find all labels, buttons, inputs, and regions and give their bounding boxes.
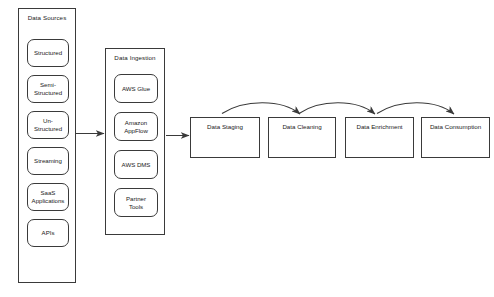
node-un-structured[interactable]: Un- Structured bbox=[27, 111, 69, 139]
node-label: Applications bbox=[32, 197, 65, 205]
node-label: Structured bbox=[34, 89, 62, 97]
connector-staging-to-cleaning bbox=[222, 103, 300, 114]
lane-title-data-sources: Data Sources bbox=[19, 14, 75, 21]
stage-label: Data Enrichment bbox=[346, 123, 413, 130]
connector-enrichment-to-consumption bbox=[377, 103, 454, 114]
stage-data-staging[interactable]: Data Staging bbox=[190, 117, 260, 158]
node-partner-tools[interactable]: Partner Tools bbox=[114, 188, 158, 217]
node-label: Semi- bbox=[40, 81, 56, 89]
node-amazon-appflow[interactable]: Amazon AppFlow bbox=[114, 112, 158, 141]
node-label: Partner bbox=[126, 195, 146, 203]
stage-data-cleaning[interactable]: Data Cleaning bbox=[268, 117, 336, 158]
stage-label: Data Cleaning bbox=[269, 123, 335, 130]
node-label: Structured bbox=[34, 49, 62, 57]
lane-data-ingestion[interactable]: Data Ingestion AWS Glue Amazon AppFlow A… bbox=[105, 48, 165, 235]
node-label: Amazon bbox=[125, 119, 147, 127]
stage-label: Data Consumption bbox=[422, 123, 489, 130]
node-label: Streaming bbox=[34, 157, 62, 165]
node-saas-applications[interactable]: SaaS Applications bbox=[27, 183, 69, 211]
connector-cleaning-to-enrichment bbox=[299, 103, 375, 114]
node-label: AppFlow bbox=[124, 127, 148, 135]
lane-data-sources[interactable]: Data Sources Structured Semi- Structured… bbox=[18, 8, 76, 283]
node-aws-dms[interactable]: AWS DMS bbox=[114, 150, 158, 179]
node-apis[interactable]: APIs bbox=[27, 219, 69, 247]
lane-title-data-ingestion: Data Ingestion bbox=[106, 54, 164, 61]
node-streaming[interactable]: Streaming bbox=[27, 147, 69, 175]
node-label: AWS DMS bbox=[122, 161, 151, 169]
node-aws-glue[interactable]: AWS Glue bbox=[114, 74, 158, 103]
stage-label: Data Staging bbox=[191, 123, 259, 130]
stage-data-consumption[interactable]: Data Consumption bbox=[421, 117, 490, 158]
node-label: Un- bbox=[43, 117, 53, 125]
node-label: AWS Glue bbox=[122, 85, 150, 93]
node-label: APIs bbox=[42, 229, 55, 237]
diagram-canvas: Data Sources Structured Semi- Structured… bbox=[0, 0, 494, 297]
node-label: SaaS bbox=[41, 189, 56, 197]
node-label: Structured bbox=[34, 125, 62, 133]
stage-data-enrichment[interactable]: Data Enrichment bbox=[345, 117, 414, 158]
node-semi-structured[interactable]: Semi- Structured bbox=[27, 75, 69, 103]
node-label: Tools bbox=[129, 203, 143, 211]
node-structured[interactable]: Structured bbox=[27, 39, 69, 67]
